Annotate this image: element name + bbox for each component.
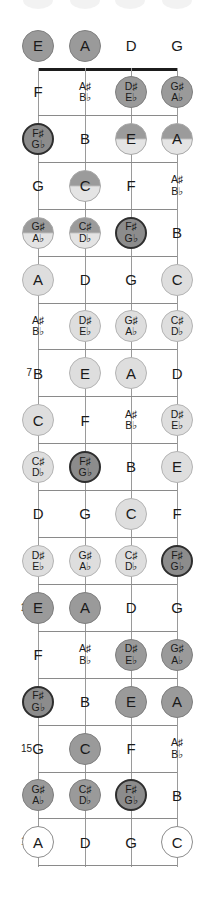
note-marker[interactable]: G♯A♭	[15, 216, 61, 250]
note-disc: C♯D♭	[161, 310, 193, 342]
note-marker[interactable]: F	[154, 497, 200, 531]
note-marker[interactable]: F♯G♭	[62, 450, 108, 484]
note-marker[interactable]: A♯B♭	[108, 403, 154, 437]
note-marker[interactable]: G♯A♭	[154, 75, 200, 109]
note-marker[interactable]: A	[154, 122, 200, 156]
note-marker[interactable]: G	[62, 497, 108, 531]
note-marker[interactable]: D	[108, 29, 154, 63]
note-marker[interactable]: D	[108, 591, 154, 625]
note-marker[interactable]: C♯D♭	[154, 309, 200, 343]
note-marker[interactable]: D	[62, 825, 108, 859]
note-marker[interactable]: D♯E♭	[108, 638, 154, 672]
note-marker[interactable]: G	[15, 732, 61, 766]
note-marker[interactable]: D	[154, 356, 200, 390]
note-marker[interactable]: G♯A♭	[154, 638, 200, 672]
note-label: D	[126, 38, 137, 53]
note-marker[interactable]: A♯B♭	[62, 638, 108, 672]
note-label: A	[172, 694, 182, 709]
note-marker[interactable]: A	[15, 263, 61, 297]
note-label: B	[172, 788, 182, 803]
note-disc: A♯B♭	[161, 733, 193, 765]
note-marker[interactable]: F♯G♭	[15, 685, 61, 719]
note-marker[interactable]: C♯D♭	[15, 450, 61, 484]
note-marker[interactable]: E	[108, 685, 154, 719]
note-marker[interactable]: D♯E♭	[154, 403, 200, 437]
note-label: G	[125, 272, 136, 287]
note-marker[interactable]: B	[108, 450, 154, 484]
note-marker[interactable]: F♯G♭	[108, 216, 154, 250]
note-marker[interactable]: A	[62, 29, 108, 63]
note-marker[interactable]: G	[154, 29, 200, 63]
note-marker[interactable]: A♯B♭	[15, 309, 61, 343]
note-disc: A♯B♭	[22, 310, 54, 342]
note-marker[interactable]: E	[108, 122, 154, 156]
note-marker[interactable]: F	[108, 732, 154, 766]
note-disc: D♯E♭	[22, 545, 54, 577]
note-marker[interactable]: C	[154, 263, 200, 297]
fretboard-diagram: EADGFA♯B♭D♯E♭G♯A♭F♯G♭BEAGCFA♯B♭G♯A♭C♯D♭F…	[0, 0, 207, 907]
note-marker[interactable]: F	[62, 403, 108, 437]
note-label: B	[80, 694, 90, 709]
note-disc: G♯A♭	[115, 310, 147, 342]
note-marker[interactable]: E	[15, 29, 61, 63]
fret-line-4	[38, 256, 177, 257]
note-disc: F	[161, 498, 193, 530]
note-marker[interactable]: C	[62, 732, 108, 766]
note-marker[interactable]: A	[108, 356, 154, 390]
note-marker[interactable]: D♯E♭	[108, 75, 154, 109]
note-marker[interactable]: G	[15, 169, 61, 203]
note-disc: G	[115, 826, 147, 858]
note-label: A	[80, 600, 90, 615]
note-label: F	[173, 506, 182, 521]
note-marker[interactable]: F	[15, 638, 61, 672]
note-marker[interactable]: C	[154, 825, 200, 859]
note-marker[interactable]: C♯D♭	[62, 216, 108, 250]
note-marker[interactable]: G	[154, 591, 200, 625]
note-marker[interactable]: D	[62, 263, 108, 297]
note-marker[interactable]: D♯E♭	[15, 544, 61, 578]
note-label: C	[172, 835, 183, 850]
note-label: A	[126, 366, 136, 381]
note-marker[interactable]: A♯B♭	[154, 169, 200, 203]
note-marker[interactable]: D	[15, 497, 61, 531]
note-marker[interactable]: B	[154, 778, 200, 812]
note-marker[interactable]: G♯A♭	[108, 309, 154, 343]
note-marker[interactable]: B	[62, 685, 108, 719]
note-marker[interactable]: G♯A♭	[15, 778, 61, 812]
note-marker[interactable]: A	[15, 825, 61, 859]
note-marker[interactable]: A♯B♭	[154, 732, 200, 766]
fret-line-6	[38, 349, 177, 350]
note-disc: F♯G♭	[69, 451, 101, 483]
note-disc: G	[115, 264, 147, 296]
note-marker[interactable]: F♯G♭	[108, 778, 154, 812]
note-marker[interactable]: G♯A♭	[62, 544, 108, 578]
note-marker[interactable]: A♯B♭	[62, 75, 108, 109]
note-marker[interactable]: C♯D♭	[108, 544, 154, 578]
note-disc: F	[69, 404, 101, 436]
note-marker[interactable]: F♯G♭	[15, 122, 61, 156]
note-marker[interactable]: C♯D♭	[62, 778, 108, 812]
note-marker[interactable]: D♯E♭	[62, 309, 108, 343]
note-marker[interactable]: A	[154, 685, 200, 719]
note-disc: C	[115, 498, 147, 530]
note-marker[interactable]: E	[154, 450, 200, 484]
note-marker[interactable]: F	[108, 169, 154, 203]
note-marker[interactable]: F♯G♭	[154, 544, 200, 578]
note-marker[interactable]: C	[15, 403, 61, 437]
note-disc: F	[22, 639, 54, 671]
note-marker[interactable]: G	[108, 825, 154, 859]
note-label: F	[127, 178, 136, 193]
note-marker[interactable]: B	[62, 122, 108, 156]
note-marker[interactable]: G	[108, 263, 154, 297]
note-marker[interactable]: F	[15, 75, 61, 109]
note-label: F	[34, 647, 43, 662]
note-marker[interactable]: C	[62, 169, 108, 203]
note-marker[interactable]: A	[62, 591, 108, 625]
note-marker[interactable]: B	[15, 356, 61, 390]
note-disc: G	[69, 498, 101, 530]
note-marker[interactable]: E	[62, 356, 108, 390]
note-marker[interactable]: C	[108, 497, 154, 531]
note-marker[interactable]: B	[154, 216, 200, 250]
note-marker[interactable]: E	[15, 591, 61, 625]
note-disc: F	[115, 170, 147, 202]
